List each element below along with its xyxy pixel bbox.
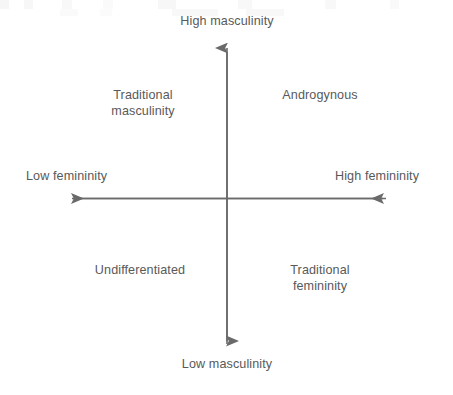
axis-label-low-masculinity: Low masculinity [182, 357, 272, 373]
axes-group [0, 0, 453, 395]
quadrant-label-androgynous: Androgynous [282, 88, 357, 104]
quadrant-diagram: High masculinity Low masculinity Low fem… [0, 0, 453, 395]
axis-label-high-masculinity: High masculinity [180, 14, 273, 30]
quadrant-label-traditional-masculinity: Traditional masculinity [111, 88, 174, 119]
axis-label-low-femininity: Low femininity [26, 169, 107, 185]
axis-label-high-femininity: High femininity [335, 169, 419, 185]
quadrant-label-undifferentiated: Undifferentiated [95, 263, 185, 279]
quadrant-label-traditional-femininity: Traditional femininity [290, 263, 349, 294]
